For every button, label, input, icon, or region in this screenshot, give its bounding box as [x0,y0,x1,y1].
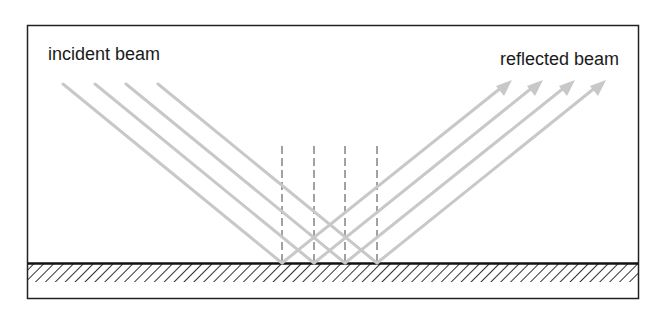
reflected-beam-line [377,87,596,263]
incident-beams [63,84,377,263]
reflected-beam-line [345,87,565,263]
reflected-beam-line [314,87,533,263]
arrowhead-icon [559,80,575,96]
incident-beam-line [126,84,345,263]
incident-beam-line [63,84,282,263]
incident-beam-line [95,84,314,263]
reflected-beam-line [282,87,502,263]
reflected-beam-label: reflected beam [500,49,619,70]
arrowhead-icon [496,80,512,96]
substrate-hatch [28,264,638,282]
arrowhead-icon [590,80,606,96]
reflected-beams [282,87,596,263]
arrowhead-icon [527,80,543,96]
incident-beam-line [158,84,377,263]
incident-beam-label: incident beam [48,44,160,65]
surface-normals [282,146,377,262]
